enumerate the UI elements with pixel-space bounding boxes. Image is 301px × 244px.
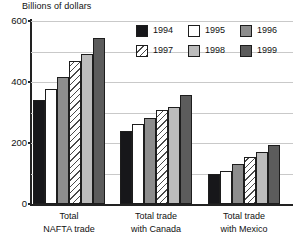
y-axis-tick-mark (28, 20, 31, 22)
y-axis-tick-mark (28, 142, 31, 144)
x-axis-baseline (31, 204, 293, 206)
bar-1997 (156, 110, 168, 204)
category-label-line: with Mexico (190, 223, 298, 236)
legend-label-1994: 1994 (153, 26, 173, 35)
legend-row: 199419951996 (136, 22, 294, 39)
bar-1995 (220, 171, 232, 204)
legend-swatch-1998 (188, 45, 200, 57)
legend-swatch-1999 (240, 45, 252, 57)
legend-item-1994[interactable]: 1994 (136, 25, 188, 37)
legend-label-1999: 1999 (257, 46, 277, 55)
legend-label-1995: 1995 (205, 26, 225, 35)
bar-1999 (268, 145, 280, 204)
y-axis-tick-label: 600 (1, 16, 27, 26)
bar-1995 (45, 89, 57, 204)
bar-1996 (144, 118, 156, 204)
bar-1999 (180, 95, 192, 204)
legend-swatch-1996 (240, 25, 252, 37)
bar-1998 (256, 152, 268, 204)
chart-axis-title: Billions of dollars (22, 1, 91, 12)
bar-1994 (120, 131, 132, 204)
bar-1994 (33, 100, 45, 204)
bar-1996 (57, 77, 69, 204)
bar-1998 (168, 107, 180, 204)
legend-item-1999[interactable]: 1999 (240, 45, 292, 57)
legend-label-1997: 1997 (153, 46, 173, 55)
category-label: Total tradewith Mexico (190, 210, 298, 236)
legend-item-1998[interactable]: 1998 (188, 45, 240, 57)
bar-1995 (132, 124, 144, 204)
legend-item-1997[interactable]: 1997 (136, 45, 188, 57)
y-axis-tick-label: 0 (1, 199, 27, 209)
chart-legend: 199419951996199719981999 (136, 22, 294, 62)
legend-item-1996[interactable]: 1996 (240, 25, 292, 37)
y-axis-tick-mark (28, 81, 31, 83)
bar-1999 (93, 38, 105, 204)
bar-group (33, 21, 105, 204)
legend-row: 199719981999 (136, 42, 294, 59)
y-axis-tick-label: 400 (1, 77, 27, 87)
y-axis-tick-label: 200 (1, 138, 27, 148)
bar-1997 (244, 157, 256, 204)
bar-1997 (69, 61, 81, 204)
y-axis-tick-mark (28, 203, 31, 205)
legend-item-1995[interactable]: 1995 (188, 25, 240, 37)
legend-label-1996: 1996 (257, 26, 277, 35)
legend-swatch-1997 (136, 45, 148, 57)
bar-1994 (208, 174, 220, 205)
category-label-line: Total trade (190, 210, 298, 223)
bar-chart: Billions of dollars 0200400600 TotalNAFT… (0, 0, 301, 244)
legend-label-1998: 1998 (205, 46, 225, 55)
bar-1996 (232, 164, 244, 204)
legend-swatch-1995 (188, 25, 200, 37)
legend-swatch-1994 (136, 25, 148, 37)
bar-1998 (81, 54, 93, 204)
